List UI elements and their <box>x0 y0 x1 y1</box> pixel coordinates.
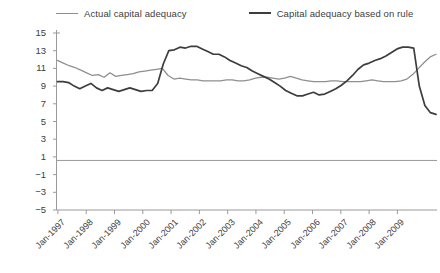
y-axis-tick-label: 7 <box>20 99 46 109</box>
y-axis-tick-label: −5 <box>20 205 46 215</box>
y-axis-tick-label: 11 <box>20 63 46 73</box>
y-axis-tick-label: 13 <box>20 46 46 56</box>
y-axis-tick-label: 5 <box>20 117 46 127</box>
y-axis-tick-label: 15 <box>20 28 46 38</box>
y-axis-tick-label: 1 <box>20 152 46 162</box>
y-axis-tick-label: 9 <box>20 81 46 91</box>
y-axis-tick-label: −3 <box>20 187 46 197</box>
y-axis-tick-label: 3 <box>20 134 46 144</box>
y-axis-tick-label: −1 <box>20 170 46 180</box>
chart-container: Actual capital adequacy Capital adequacy… <box>0 0 440 273</box>
